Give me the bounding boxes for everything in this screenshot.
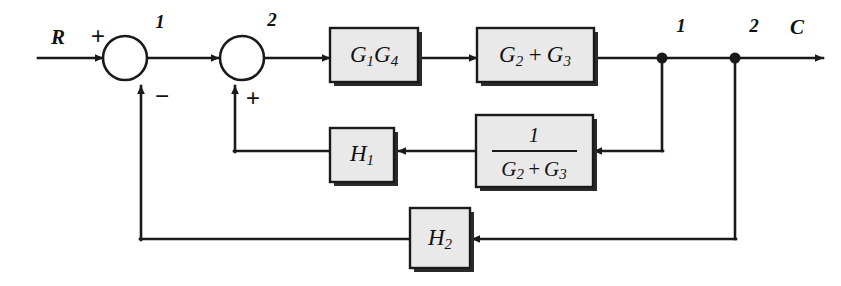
block-h1[interactable]: H1: [330, 128, 398, 186]
block-inverse-numerator: 1: [529, 123, 540, 147]
node-1-label: 1: [676, 15, 686, 36]
input-label: R: [50, 25, 65, 49]
node-2-label: 2: [748, 15, 759, 36]
junction-1-feedback-sign: −: [155, 82, 169, 109]
junction-2-label: 2: [266, 9, 277, 30]
node-2-dot: [730, 53, 741, 64]
block-diagram-canvas: G1G4 G2+G3 H1 1 G2+G3: [0, 0, 841, 286]
junction-1-input-sign: +: [91, 22, 105, 49]
node-1-dot: [657, 53, 668, 64]
block-inverse-denominator: G2+G3: [501, 157, 567, 183]
junction-2-circle: [220, 36, 264, 80]
block-h2[interactable]: H2: [410, 208, 474, 272]
block-diagram-svg: G1G4 G2+G3 H1 1 G2+G3: [0, 0, 841, 286]
junction-1-label: 1: [155, 11, 165, 32]
node-2[interactable]: 2: [730, 15, 760, 64]
block-inverse-g2-plus-g3[interactable]: 1 G2+G3: [476, 115, 597, 191]
junction-1[interactable]: 1 + −: [91, 11, 169, 109]
block-g2-plus-g3-label: G2+G3: [499, 42, 571, 69]
block-g1g4[interactable]: G1G4: [330, 28, 422, 86]
output-label: C: [790, 15, 805, 39]
inner-feedback-wires: [234, 58, 663, 152]
junction-2-feedback-sign: +: [246, 84, 260, 111]
block-g2-plus-g3[interactable]: G2+G3: [477, 28, 598, 86]
junction-1-circle: [103, 36, 147, 80]
node-1[interactable]: 1: [657, 15, 686, 64]
junction-2[interactable]: 2 +: [220, 9, 277, 111]
